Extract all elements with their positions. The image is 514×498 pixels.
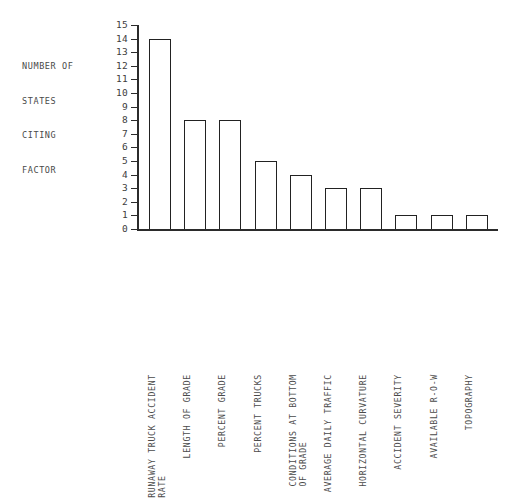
bar <box>395 215 417 229</box>
x-axis-label-line: LENGTH OF GRADE <box>182 374 192 458</box>
y-axis-tick-mark <box>131 161 137 162</box>
bar-chart-plot-area: 0123456789101112131415 <box>137 25 498 231</box>
x-axis-label-text: PERCENT TRUCKS <box>253 374 263 453</box>
y-axis-tick-label: 13 <box>116 46 128 57</box>
y-axis-tick-mark <box>131 215 137 216</box>
bar <box>290 175 312 229</box>
bar <box>325 188 347 229</box>
y-axis-caption-line-2: STATES <box>22 96 73 108</box>
y-axis-tick-mark <box>131 93 137 94</box>
bar <box>184 120 206 229</box>
x-axis-label-line: PERCENT GRADE <box>217 374 227 447</box>
bar <box>149 39 171 229</box>
x-axis-label-text: RUNAWAY TRUCK ACCIDENTRATE <box>147 374 167 498</box>
y-axis-tick-mark <box>131 107 137 108</box>
y-axis-tick-mark <box>131 202 137 203</box>
x-axis-label-text: AVAILABLE R-O-W <box>429 374 439 458</box>
y-axis-tick-mark <box>131 39 137 40</box>
bar <box>431 215 453 229</box>
x-axis-label-text: CONDITIONS AT BOTTOMOF GRADE <box>288 374 308 487</box>
x-axis-baseline <box>137 229 498 231</box>
y-axis-tick-label: 10 <box>116 87 128 98</box>
x-axis-label-text: LENGTH OF GRADE <box>182 374 192 458</box>
x-axis-label-line: OF GRADE <box>298 374 308 487</box>
x-axis-label-text: HORIZONTAL CURVATURE <box>358 374 368 487</box>
y-axis-tick-label: 4 <box>122 169 128 180</box>
y-axis-tick-mark <box>131 52 137 53</box>
y-axis-tick-label: 11 <box>116 73 128 84</box>
bar <box>360 188 382 229</box>
x-axis-label-text: PERCENT GRADE <box>217 374 227 447</box>
y-axis-tick-mark <box>131 147 137 148</box>
x-axis-label-9: TOPOGRAPHY <box>464 238 514 252</box>
y-axis-tick-label: 7 <box>122 128 128 139</box>
y-axis-caption-line-1: NUMBER OF <box>22 61 73 73</box>
y-axis-tick-mark <box>131 134 137 135</box>
bar <box>466 215 488 229</box>
x-axis-label-line: AVERAGE DAILY TRAFFIC <box>323 374 333 492</box>
y-axis-line <box>137 25 139 231</box>
y-axis-tick-label: 8 <box>122 114 128 125</box>
y-axis-tick-label: 15 <box>116 19 128 30</box>
y-axis-tick-label: 0 <box>122 223 128 234</box>
y-axis-caption: NUMBER OF STATES CITING FACTOR <box>22 38 73 188</box>
y-axis-tick-label: 6 <box>122 141 128 152</box>
y-axis-tick-label: 5 <box>122 155 128 166</box>
y-axis-tick-mark <box>131 66 137 67</box>
y-axis-tick-label: 2 <box>122 196 128 207</box>
y-axis-caption-line-4: FACTOR <box>22 165 73 177</box>
y-axis-tick-mark <box>131 188 137 189</box>
y-axis-tick-label: 14 <box>116 33 128 44</box>
x-axis-label-line: ACCIDENT SEVERITY <box>393 374 403 470</box>
y-axis-tick-mark <box>131 229 137 230</box>
y-axis-tick-mark <box>131 175 137 176</box>
y-axis-tick-label: 12 <box>116 60 128 71</box>
x-axis-label-line: CONDITIONS AT BOTTOM <box>288 374 298 487</box>
bar <box>255 161 277 229</box>
x-axis-label-text: TOPOGRAPHY <box>464 374 474 430</box>
x-axis-label-line: HORIZONTAL CURVATURE <box>358 374 368 487</box>
y-axis-caption-line-3: CITING <box>22 130 73 142</box>
y-axis-tick-label: 9 <box>122 101 128 112</box>
bar <box>219 120 241 229</box>
y-axis-tick-mark <box>131 25 137 26</box>
x-axis-label-text: AVERAGE DAILY TRAFFIC <box>323 374 333 492</box>
x-axis-label-line: AVAILABLE R-O-W <box>429 374 439 458</box>
y-axis-tick-mark <box>131 120 137 121</box>
x-axis-label-line: RUNAWAY TRUCK ACCIDENT <box>147 374 157 498</box>
x-axis-label-line: TOPOGRAPHY <box>464 374 474 430</box>
x-axis-label-text: ACCIDENT SEVERITY <box>393 374 403 470</box>
y-axis-tick-label: 1 <box>122 209 128 220</box>
y-axis-tick-mark <box>131 79 137 80</box>
y-axis-tick-label: 3 <box>122 182 128 193</box>
x-axis-label-line: RATE <box>157 374 167 498</box>
x-axis-labels: RUNAWAY TRUCK ACCIDENTRATELENGTH OF GRAD… <box>137 238 498 374</box>
x-axis-label-line: PERCENT TRUCKS <box>253 374 263 453</box>
